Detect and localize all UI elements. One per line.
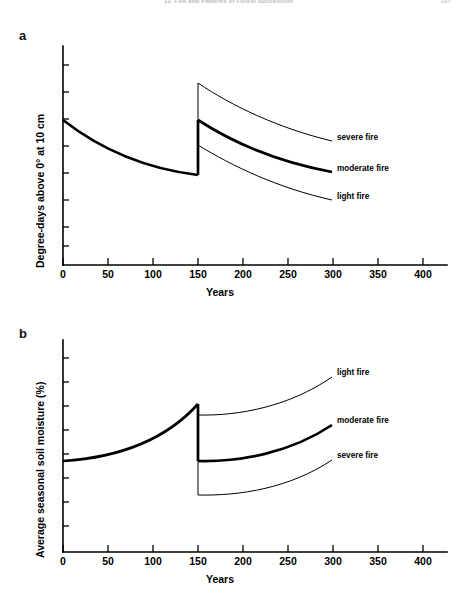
page-header: 12. Fire and Patterns of Forest Successi… bbox=[0, 0, 457, 14]
panel-a-xtick-250: 250 bbox=[279, 268, 297, 280]
chart-panel-b: b Average seasonal soil moisture (%) bbox=[0, 320, 457, 597]
page-folio: 227 bbox=[441, 0, 451, 4]
panel-a-y-ticks bbox=[63, 65, 69, 246]
panel-b-y-axis-title: Average seasonal soil moisture (%) bbox=[34, 382, 46, 558]
panel-b-xtick-150: 150 bbox=[189, 555, 207, 567]
panel-a-xtick-400: 400 bbox=[414, 268, 432, 280]
panel-a-xtick-350: 350 bbox=[369, 268, 387, 280]
panel-b-x-axis-title: Years bbox=[206, 573, 234, 585]
panel-b-xtick-350: 350 bbox=[369, 555, 387, 567]
panel-a-x-ticks bbox=[63, 258, 423, 265]
panel-a-xtick-50: 50 bbox=[102, 268, 114, 280]
chart-panel-a: a Degree-days above 0° at 10 cm bbox=[0, 20, 457, 305]
panel-a-x-axis-title: Years bbox=[206, 286, 234, 298]
panel-b-curve-severe bbox=[198, 460, 332, 495]
panel-a-plot bbox=[0, 20, 457, 290]
panel-b-plot bbox=[0, 320, 457, 578]
panel-a-xtick-300: 300 bbox=[324, 268, 342, 280]
panel-b-curve-prefire bbox=[63, 404, 198, 461]
panel-b-xtick-0: 0 bbox=[60, 555, 66, 567]
panel-a-label-light-fire: light fire bbox=[337, 192, 369, 201]
panel-a-y-axis-title: Degree-days above 0° at 10 cm bbox=[34, 114, 46, 268]
panel-a-xtick-200: 200 bbox=[234, 268, 252, 280]
panel-a-xtick-0: 0 bbox=[60, 268, 66, 280]
panel-b-y-ticks bbox=[63, 358, 69, 526]
panel-b-label-light-fire: light fire bbox=[337, 368, 369, 377]
panel-b-label-severe-fire: severe fire bbox=[337, 451, 378, 460]
panel-b-xtick-400: 400 bbox=[414, 555, 432, 567]
running-title: 12. Fire and Patterns of Forest Successi… bbox=[0, 0, 457, 4]
panel-b-xtick-100: 100 bbox=[144, 555, 162, 567]
panel-b-curve-light bbox=[198, 377, 332, 415]
panel-a-label-severe-fire: severe fire bbox=[337, 133, 378, 142]
panel-b-xtick-50: 50 bbox=[102, 555, 114, 567]
panel-a-xtick-100: 100 bbox=[144, 268, 162, 280]
panel-a-curve-prefire bbox=[63, 120, 198, 175]
panel-label-b: b bbox=[19, 326, 27, 341]
panel-b-label-moderate-fire: moderate fire bbox=[337, 416, 389, 425]
panel-b-xtick-250: 250 bbox=[279, 555, 297, 567]
panel-a-label-moderate-fire: moderate fire bbox=[337, 164, 389, 173]
panel-b-xtick-200: 200 bbox=[234, 555, 252, 567]
panel-b-xtick-300: 300 bbox=[324, 555, 342, 567]
panel-b-x-ticks bbox=[63, 545, 423, 552]
panel-label-a: a bbox=[19, 28, 26, 43]
panel-b-curve-moderate bbox=[198, 425, 332, 461]
panel-a-xtick-150: 150 bbox=[189, 268, 207, 280]
panel-a-curve-moderate bbox=[198, 120, 332, 172]
